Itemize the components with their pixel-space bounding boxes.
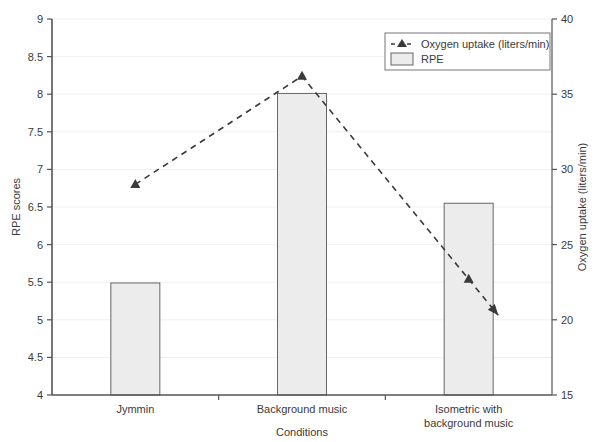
y-tick-label-right-15: 15: [561, 389, 573, 401]
rpe-oxygen-uptake-chart: 44.555.566.577.588.59152025303540JymminB…: [0, 0, 601, 442]
y-tick-label-left-8.5: 8.5: [28, 51, 43, 63]
bar-jymmin: [111, 283, 160, 395]
y-tick-label-left-5: 5: [37, 314, 43, 326]
x-category-label-2: Isometric with: [435, 403, 502, 415]
y-axis-title-left: RPE scores: [10, 177, 22, 236]
y-tick-label-left-4.5: 4.5: [28, 351, 43, 363]
oxygen-uptake-marker-1: [297, 71, 307, 80]
y-tick-label-left-4: 4: [37, 389, 43, 401]
bar-background-music: [278, 93, 327, 395]
y-tick-label-right-30: 30: [561, 163, 573, 175]
legend: Oxygen uptake (liters/min)RPE: [385, 33, 550, 70]
oxygen-uptake-marker-0: [130, 179, 140, 188]
y-tick-label-left-8: 8: [37, 88, 43, 100]
y-tick-label-left-6.5: 6.5: [28, 201, 43, 213]
legend-label-rpe: RPE: [421, 53, 444, 65]
legend-swatch-rpe-icon: [391, 53, 413, 65]
y-tick-label-left-9: 9: [37, 13, 43, 25]
y-tick-label-left-7.5: 7.5: [28, 126, 43, 138]
y-tick-label-right-40: 40: [561, 13, 573, 25]
x-category-label-1: Background music: [257, 403, 348, 415]
y-tick-label-right-35: 35: [561, 88, 573, 100]
x-axis-title: Conditions: [276, 426, 328, 438]
x-category-label-2: background music: [424, 417, 514, 429]
chart-figure: 44.555.566.577.588.59152025303540JymminB…: [0, 0, 601, 442]
y-tick-label-left-5.5: 5.5: [28, 276, 43, 288]
x-category-label-0: Jymmin: [116, 403, 154, 415]
y-tick-label-right-25: 25: [561, 239, 573, 251]
y-tick-label-left-7: 7: [37, 163, 43, 175]
legend-label-oxygen-uptake: Oxygen uptake (liters/min): [421, 38, 549, 50]
y-axis-title-right: Oxygen uptake (liters/min): [576, 143, 588, 271]
y-tick-label-right-20: 20: [561, 314, 573, 326]
y-tick-label-left-6: 6: [37, 239, 43, 251]
